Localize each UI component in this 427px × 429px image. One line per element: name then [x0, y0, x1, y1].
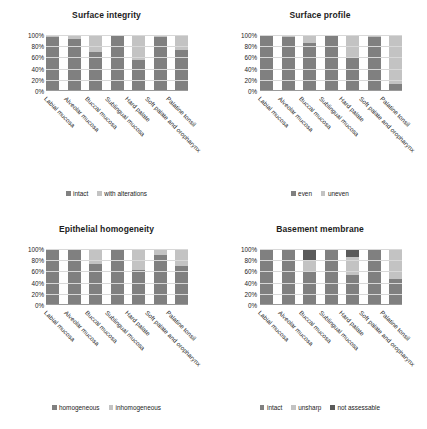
chart-legend: intactwith alterations	[0, 190, 213, 197]
stacked-bar	[89, 249, 102, 305]
legend-swatch-icon	[330, 405, 335, 410]
stacked-bar	[111, 249, 124, 305]
chart-title: Surface integrity	[0, 10, 213, 20]
gridline	[260, 35, 402, 36]
stacked-bar	[303, 35, 316, 91]
legend-item: intact	[260, 404, 282, 411]
x-axis-labels: Labial mucosaAlveolar mucosaBuccal mucos…	[46, 93, 188, 163]
legend-label: not assessable	[337, 404, 380, 411]
legend-item: intact	[66, 190, 88, 197]
y-axis-tick-label: 80%	[31, 43, 44, 50]
gridline	[46, 46, 188, 47]
gridline	[46, 294, 188, 295]
legend-label: homogeneous	[59, 404, 100, 411]
y-axis-labels: 100%80%60%40%20%0%	[231, 31, 257, 95]
axis-baseline	[260, 304, 402, 305]
legend-swatch-icon	[97, 191, 102, 196]
bar-segment	[346, 57, 359, 91]
bar-segment	[111, 249, 124, 305]
stacked-bar	[111, 35, 124, 91]
chart-panel-surface-profile: Surface profile 100%80%60%40%20%0% Labia…	[213, 0, 427, 214]
chart-panel-epithelial-homogeneity: Epithelial homogeneity 100%80%60%40%20%0…	[0, 214, 213, 429]
chart-title: Basement membrane	[213, 224, 427, 234]
bar-segment	[346, 275, 359, 305]
gridline	[260, 80, 402, 81]
legend-item: uneven	[321, 190, 349, 197]
y-axis-tick-label: 60%	[31, 54, 44, 61]
legend-item: with alterations	[97, 190, 147, 197]
stacked-bar	[303, 249, 316, 305]
gridline	[46, 80, 188, 81]
y-axis-tick-label: 0%	[35, 88, 44, 95]
stacked-bar	[389, 35, 402, 91]
gridline	[46, 271, 188, 272]
stacked-bar	[154, 249, 167, 305]
y-axis-tick-label: 0%	[35, 302, 44, 309]
stacked-bar	[368, 35, 381, 91]
axis-baseline	[260, 90, 402, 91]
y-axis-labels: 100%80%60%40%20%0%	[18, 245, 44, 309]
y-axis-tick-label: 60%	[31, 268, 44, 275]
bar-segment	[132, 270, 145, 305]
bar-segment	[175, 50, 188, 91]
chart-legend: evenuneven	[213, 190, 427, 197]
plot-area	[260, 249, 402, 305]
legend-swatch-icon	[109, 405, 114, 410]
bar-segment	[68, 39, 81, 91]
stacked-bar	[175, 249, 188, 305]
bar-segment	[303, 43, 316, 91]
bars-container	[46, 249, 188, 305]
y-axis-tick-label: 100%	[28, 246, 44, 253]
bar-segment	[111, 35, 124, 91]
legend-item: inhomogeneous	[109, 404, 161, 411]
legend-swatch-icon	[66, 191, 71, 196]
x-axis-labels: Labial mucosaAlveolar mucosaBuccal mucos…	[260, 307, 402, 377]
gridline	[46, 260, 188, 261]
gridline	[46, 57, 188, 58]
stacked-bar	[260, 249, 273, 305]
y-axis-tick-label: 80%	[244, 257, 257, 264]
bar-segment	[282, 249, 295, 305]
y-axis-labels: 100%80%60%40%20%0%	[231, 245, 257, 309]
bar-segment	[154, 255, 167, 305]
bar-segment	[175, 35, 188, 50]
y-axis-tick-label: 0%	[248, 302, 257, 309]
y-axis-tick-label: 20%	[244, 77, 257, 84]
bar-segment	[68, 249, 81, 305]
bar-segment	[303, 249, 316, 260]
y-axis-tick-label: 0%	[248, 88, 257, 95]
gridline	[260, 46, 402, 47]
bar-segment	[325, 35, 338, 91]
stacked-bar	[260, 35, 273, 91]
gridline	[260, 69, 402, 70]
legend-label: intact	[267, 404, 282, 411]
y-axis-tick-label: 40%	[244, 66, 257, 73]
stacked-bar	[154, 35, 167, 91]
axis-baseline	[46, 304, 188, 305]
y-axis-labels: 100%80%60%40%20%0%	[18, 31, 44, 95]
bar-segment	[89, 249, 102, 264]
chart-title: Epithelial homogeneity	[0, 224, 213, 234]
bar-segment	[389, 249, 402, 279]
bar-segment	[89, 35, 102, 52]
stacked-bar	[132, 249, 145, 305]
bar-segment	[46, 249, 59, 305]
legend-item: even	[291, 190, 312, 197]
stacked-bar	[325, 249, 338, 305]
stacked-bar	[68, 35, 81, 91]
legend-item: not assessable	[330, 404, 380, 411]
bars-container	[260, 35, 402, 91]
bar-segment	[325, 249, 338, 305]
y-axis-tick-label: 60%	[244, 54, 257, 61]
y-axis-tick-label: 100%	[241, 246, 257, 253]
stacked-bar	[368, 249, 381, 305]
stacked-bar	[346, 249, 359, 305]
gridline	[260, 57, 402, 58]
stacked-bar	[132, 35, 145, 91]
y-axis-tick-label: 20%	[31, 291, 44, 298]
legend-label: uneven	[328, 190, 349, 197]
legend-swatch-icon	[260, 405, 265, 410]
legend-label: intact	[73, 190, 88, 197]
chart-title: Surface profile	[213, 10, 427, 20]
stacked-bar	[325, 35, 338, 91]
